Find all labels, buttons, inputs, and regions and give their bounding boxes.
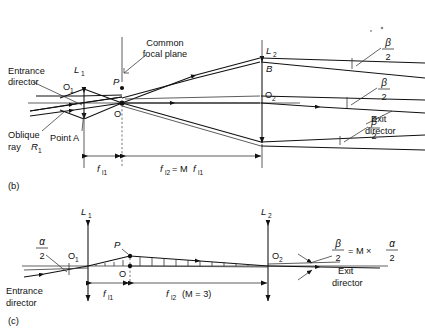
lens-l2-sub-c: 2 (268, 212, 272, 219)
entrance-director-label-c-line2: director (6, 298, 37, 308)
beta-top-numer: β (384, 37, 391, 48)
oblique-ray-label-line2: ray R 1 (8, 141, 42, 154)
dim-f1-sub-b: l1 (102, 169, 107, 176)
point-b-label: B (266, 63, 273, 74)
exit-angle-mark-upper-c (298, 254, 312, 263)
lens-l1-letter-b: L (74, 64, 79, 75)
entrance-director-label-c-line1: Entrance (6, 286, 43, 296)
o2-label-c: O 2 (272, 251, 283, 263)
dim-label-f1-c: f l1 (103, 288, 113, 301)
lens-l2-label-c: L 2 (261, 206, 272, 219)
ray-l1-to-p-c (88, 256, 130, 266)
beta-bot-numer: β (370, 116, 377, 127)
dim-f1-main-c: f (103, 288, 107, 299)
entrance-ray-c (24, 266, 88, 277)
oblique-ray-r1-lower-arrow (30, 103, 122, 116)
rel-alpha-numer-c: α (389, 238, 395, 249)
exit-beam-bot-upper (261, 135, 425, 142)
dim-label-f2-c: f l2 (M = 3) (166, 288, 211, 301)
exit-beam-mid-leader (351, 88, 377, 105)
lens-l2-letter-b: L (266, 45, 271, 56)
beta-mid-denom: 2 (381, 92, 386, 102)
dim-f2-sub-c: l2 (171, 294, 176, 301)
oblique-ray-symbol: R (31, 141, 38, 152)
point-p-label-c: P (114, 239, 121, 250)
alpha-over-2-c: α 2 (36, 236, 48, 261)
point-a-label: Point A (50, 133, 80, 143)
beta-relation-c: β 2 = M × α 2 (332, 238, 398, 263)
alpha-numer-c: α (39, 236, 45, 247)
exit-beam-top-lower (261, 62, 425, 78)
panel-c: L 1 L 2 O 1 O 2 P O α 2 (6, 206, 398, 326)
exit-beam-top-upper (261, 58, 425, 63)
lens-l1-sub-b: 1 (81, 70, 85, 77)
beta-denom-c: 2 (335, 253, 340, 263)
point-p-marker-c (128, 254, 132, 258)
lens-l1-sub-c: 1 (88, 212, 92, 219)
oblique-ray-label-line1: Oblique (8, 130, 40, 140)
dim-f2-sub-b: l2 (165, 169, 170, 176)
dim-f1-sub-c: l1 (108, 294, 113, 301)
alpha-denom-c: 2 (39, 251, 44, 261)
o1-label-c: O 1 (68, 251, 79, 263)
lens-l2-label-b: L 2 (266, 45, 277, 58)
dim-f2-main-b: f (160, 163, 164, 174)
o1-sub-c: 1 (75, 256, 79, 263)
lens-l1-label-b: L 1 (74, 64, 85, 77)
point-o-label-b: O (114, 109, 121, 119)
ray-o-to-l2-bottom-2 (122, 106, 261, 146)
exit-angle-mark-lower-c (298, 270, 312, 280)
point-p-leader-c (122, 249, 128, 254)
exit-beam-bot-lower (261, 146, 425, 150)
beta-bot-denom: 2 (371, 131, 376, 141)
panel-b-label: (b) (8, 180, 19, 191)
point-p-label-b: P (113, 76, 120, 87)
exit-beam-mid-upper (261, 96, 425, 100)
exit-director-label-c-line2: director (332, 278, 363, 288)
o2-sub-b: 2 (272, 95, 276, 102)
dim-label-f1-b: f l1 (97, 163, 107, 176)
lens-l2-sub-b: 2 (273, 51, 277, 58)
entrance-director-label-b-line2: director (8, 77, 39, 87)
o1-label-b: O 1 (63, 82, 74, 94)
point-p-marker-b (120, 86, 124, 90)
oblique-ray-symbol-sub: 1 (38, 147, 42, 154)
lens-l2-letter-c: L (261, 206, 266, 217)
entrance-ref-axis-c (24, 268, 88, 270)
dim-f2-tail-sub-b: l1 (198, 169, 203, 176)
point-o-marker-b (119, 100, 124, 105)
ray-p-to-l2-c (130, 256, 268, 266)
lens-l1-label-c: L 1 (81, 206, 92, 219)
entrance-director-label-b-line1: Entrance (8, 66, 45, 76)
beta-mid-numer: β (380, 77, 387, 88)
oblique-ray-leader-b (42, 112, 64, 131)
speck-artifact-2 (381, 27, 384, 30)
exit-director-label-b-line2: director (365, 126, 396, 136)
o1-sub-b: 1 (70, 87, 74, 94)
speck-artifact-1 (370, 30, 372, 32)
dim-f2-tail-main-b: f (193, 163, 197, 174)
ray-axis-to-l2-upper (125, 96, 260, 99)
beta-over-2-top: β 2 (382, 37, 394, 62)
exit-beam-top-leader (356, 48, 381, 66)
dim-label-f2-b: f l2 = M f l1 (160, 163, 203, 176)
rel-alpha-denom-c: 2 (389, 253, 394, 263)
lens-l1-letter-c: L (81, 206, 86, 217)
exit-beam-mid-lower (261, 103, 425, 113)
dim-f2-eq-b: = M (172, 164, 188, 174)
beta-over-2-mid: β 2 (378, 77, 390, 102)
optics-ray-diagram: Common focal plane Entrance director Obl… (0, 0, 425, 330)
oblique-ray-label-word: ray (8, 142, 21, 152)
figure-root: Common focal plane Entrance director Obl… (0, 0, 425, 330)
entrance-director-leader-b (33, 82, 82, 105)
dim-f2-note-c: (M = 3) (182, 289, 211, 299)
ray-o-to-l2-bottom (122, 103, 261, 142)
point-o-marker-c (128, 264, 132, 268)
axial-ray-upper-in (36, 95, 122, 96)
beta-relation-eq-c: = M × (348, 246, 372, 256)
panel-b: Common focal plane Entrance director Obl… (8, 27, 425, 191)
ray-p-to-l2-top (122, 62, 260, 98)
dim-f2-main-c: f (166, 288, 170, 299)
point-o-label-c: O (119, 269, 126, 279)
o2-label-b: O 2 (265, 90, 276, 102)
